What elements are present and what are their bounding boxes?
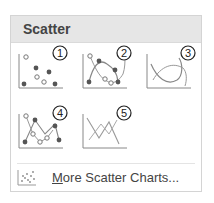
gallery-title: Scatter xyxy=(23,21,70,37)
separator xyxy=(17,163,195,164)
more-scatter-charts-label: More Scatter Charts... xyxy=(52,170,179,185)
scatter-option-1[interactable]: 1 xyxy=(15,44,71,94)
gallery-header: Scatter xyxy=(11,16,201,43)
badge-4: 4 xyxy=(57,107,63,119)
scatter-smooth-lines-markers-icon: 2 xyxy=(79,44,135,94)
scatter-option-3[interactable]: 3 xyxy=(143,44,199,94)
badge-3: 3 xyxy=(185,47,191,59)
scatter-option-5[interactable]: 5 xyxy=(79,104,135,154)
scatter-smooth-lines-icon: 3 xyxy=(143,44,199,94)
scatter-straight-lines-icon: 5 xyxy=(79,104,135,154)
scatter-markers-icon: 1 xyxy=(15,44,71,94)
scatter-option-4[interactable]: 4 xyxy=(15,104,71,154)
scatter-dots-icon xyxy=(17,168,37,190)
badge-1: 1 xyxy=(57,47,63,59)
badge-2: 2 xyxy=(121,47,127,59)
scatter-straight-lines-markers-icon: 4 xyxy=(15,104,71,154)
scatter-gallery-panel: Scatter 1 2 xyxy=(10,15,202,192)
more-scatter-charts-button[interactable]: More Scatter Charts... xyxy=(13,166,199,190)
scatter-option-2[interactable]: 2 xyxy=(79,44,135,94)
badge-5: 5 xyxy=(121,107,127,119)
